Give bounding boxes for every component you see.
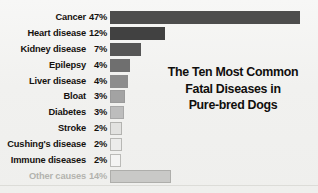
chart-title-line-2: Fatal Diseases in [150, 81, 316, 98]
bar [110, 11, 300, 24]
bar [110, 90, 125, 103]
bar-value-label: 12% [86, 27, 110, 40]
bar [110, 75, 128, 88]
bar-row: Cancer47% [0, 11, 318, 24]
bar-label: Heart disease [0, 27, 86, 40]
chart-title: The Ten Most Common Fatal Diseases in Pu… [150, 64, 316, 114]
bar-label: Cushing's disease [0, 138, 86, 151]
bar-value-label: 4% [86, 59, 110, 72]
bar-label: Bloat [0, 90, 86, 103]
bar-value-label: 4% [86, 75, 110, 88]
bar [110, 154, 121, 167]
bar-value-label: 2% [86, 154, 110, 167]
bottom-divider [0, 185, 318, 186]
chart-title-line-3: Pure-bred Dogs [150, 97, 316, 114]
bar-track [110, 43, 318, 56]
bar-track [110, 170, 318, 183]
bar-value-label: 2% [86, 138, 110, 151]
bar-track [110, 27, 318, 40]
bar-row: Other causes14% [0, 170, 318, 183]
bar-label: Immune diseases [0, 154, 86, 167]
bar-row: Kidney disease7% [0, 43, 318, 56]
fatal-diseases-bar-chart: Cancer47%Heart disease12%Kidney disease7… [0, 0, 318, 193]
bar-value-label: 2% [86, 122, 110, 135]
bar [110, 170, 171, 183]
bar-label: Kidney disease [0, 43, 86, 56]
bar-track [110, 154, 318, 167]
bar-value-label: 7% [86, 43, 110, 56]
bar-row: Stroke2% [0, 122, 318, 135]
bar-value-label: 47% [86, 11, 110, 24]
bar-label: Other causes [0, 170, 86, 183]
bar [110, 106, 124, 119]
bar-row: Heart disease12% [0, 27, 318, 40]
bar-label: Liver disease [0, 75, 86, 88]
bar-row: Cushing's disease2% [0, 138, 318, 151]
bar [110, 43, 141, 56]
bar-label: Cancer [0, 11, 86, 24]
bar [110, 122, 122, 135]
bar-track [110, 138, 318, 151]
bar-label: Diabetes [0, 106, 86, 119]
bar-label: Stroke [0, 122, 86, 135]
bar-value-label: 3% [86, 106, 110, 119]
chart-title-line-1: The Ten Most Common [150, 64, 316, 81]
bar-value-label: 14% [86, 170, 110, 183]
bar-row: Immune diseases2% [0, 154, 318, 167]
bar-label: Epilepsy [0, 59, 86, 72]
bar-track [110, 11, 318, 24]
bar-track [110, 122, 318, 135]
bar [110, 138, 122, 151]
bar [110, 27, 165, 40]
bar [110, 59, 130, 72]
bar-value-label: 3% [86, 90, 110, 103]
